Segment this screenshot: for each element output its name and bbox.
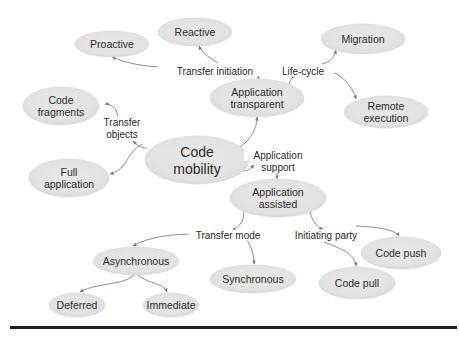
nodes-layer: ReactiveProactiveMigrationApplicationtra… [23, 18, 441, 317]
edge-ip-to-pull [324, 242, 356, 266]
node-label: Code [180, 144, 214, 160]
edge-label-life-cycle: Life-cycle [272, 66, 334, 77]
edge-aa-to-ip [310, 211, 323, 229]
edge-tobj-to-fragments [105, 104, 118, 116]
edge-label-text: Life-cycle [282, 66, 325, 77]
edge-label-text: support [261, 162, 295, 173]
node-label: Remote [368, 100, 405, 112]
node-remote-execution: Remoteexecution [344, 96, 428, 128]
edge-cm-to-at [240, 117, 257, 147]
edge-cm-to-tobj [133, 141, 147, 148]
edge-label-text: Transfer mode [196, 230, 261, 241]
node-label: assisted [259, 198, 298, 210]
edge-aa-to-tm [232, 211, 244, 230]
node-label: Synchronous [222, 273, 283, 285]
edge-label-text: Application [254, 150, 303, 161]
node-application-assisted: Applicationassisted [230, 179, 326, 217]
node-code-mobility: Codemobility [145, 136, 249, 184]
edge-tm-to-async [133, 234, 196, 246]
node-synchronous: Synchronous [210, 265, 296, 293]
node-label: Proactive [90, 38, 134, 50]
node-label: Immediate [146, 299, 195, 311]
node-label: execution [364, 112, 409, 124]
node-label: fragments [38, 106, 85, 118]
bottom-rule [10, 326, 457, 329]
edge-label-transfer-objects: Transferobjects [97, 117, 147, 140]
node-proactive: Proactive [75, 31, 149, 57]
edge-async-to-deferred [80, 275, 134, 292]
node-label: Code push [376, 247, 427, 259]
edge-ti-to-reactive [199, 46, 218, 63]
node-application-transparent: Applicationtransparent [210, 79, 304, 117]
edge-label-initiating-party: Initiating party [278, 230, 375, 241]
node-label: Migration [341, 33, 384, 45]
edge-lc-to-migration [322, 50, 336, 64]
edge-tobj-to-full [110, 144, 143, 174]
node-label: Application [252, 186, 304, 198]
node-label: Application [231, 86, 283, 98]
node-label: Reactive [175, 26, 216, 38]
edge-label-text: Transfer [104, 117, 142, 128]
edge-tm-to-sync [247, 240, 254, 264]
edge-at-to-life-cycle [289, 76, 295, 85]
edge-label-transfer-mode: Transfer mode [188, 230, 267, 241]
node-label: transparent [230, 98, 283, 110]
node-full-application: Fullapplication [29, 159, 109, 197]
node-label: Deferred [57, 299, 98, 311]
code-mobility-diagram: ReactiveProactiveMigrationApplicationtra… [0, 0, 459, 343]
node-migration: Migration [321, 24, 405, 54]
node-label: mobility [173, 161, 220, 177]
node-code-push: Code push [361, 237, 441, 269]
node-label: Full [61, 166, 78, 178]
edge-label-text: Initiating party [295, 230, 357, 241]
node-code-fragments: Codefragments [23, 87, 99, 125]
node-code-pull: Code pull [319, 267, 395, 299]
node-label: Asynchronous [103, 255, 170, 267]
node-asynchronous: Asynchronous [93, 247, 179, 275]
node-label: Code pull [335, 277, 379, 289]
edge-async-to-immediate [138, 275, 167, 292]
edge-ti-to-proactive [112, 57, 166, 67]
node-label: application [44, 178, 94, 190]
node-label: Code [48, 94, 73, 106]
edge-label-text: Transfer initiation [177, 66, 253, 77]
node-deferred: Deferred [49, 293, 105, 317]
node-reactive: Reactive [158, 18, 232, 46]
edge-label-transfer-initiation: Transfer initiation [158, 66, 272, 77]
edge-label-application-support: Applicationsupport [244, 150, 312, 173]
node-immediate: Immediate [143, 293, 199, 317]
edge-label-text: objects [106, 129, 138, 140]
